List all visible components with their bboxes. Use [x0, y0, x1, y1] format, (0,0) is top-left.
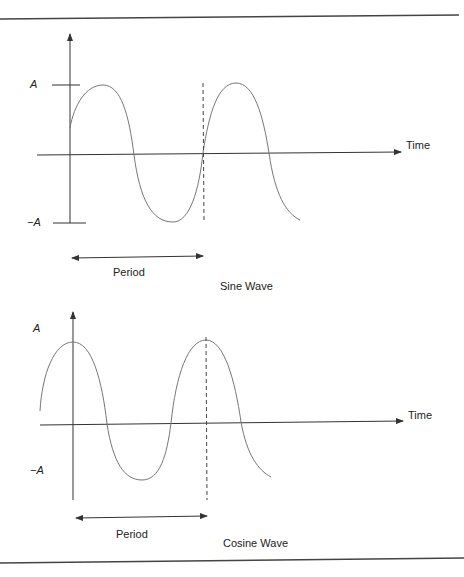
cosine-panel [40, 312, 403, 518]
cosine-time-axis [40, 421, 403, 425]
sine-amplitude-label: A [30, 78, 37, 91]
sine-period-arrow [72, 256, 203, 258]
sine-time-axis [37, 152, 401, 155]
sine-curve [70, 83, 300, 222]
sine-time-label: Time [406, 139, 430, 152]
sine-caption: Sine Wave [220, 280, 273, 293]
cosine-period-label: Period [116, 528, 148, 541]
cosine-caption: Cosine Wave [223, 537, 288, 550]
cosine-period-arrow [76, 516, 207, 518]
sine-period-label: Period [113, 266, 145, 279]
sine-panel [37, 34, 401, 258]
bottom-rule [0, 558, 464, 563]
top-rule [0, 15, 459, 19]
cosine-period-marker [206, 337, 207, 500]
cosine-curve [40, 340, 271, 480]
sine-negative-amplitude-label: −A [27, 216, 41, 229]
cosine-time-label: Time [408, 409, 432, 422]
cosine-negative-amplitude-label: −A [30, 464, 44, 477]
cosine-amplitude-label: A [33, 322, 40, 335]
